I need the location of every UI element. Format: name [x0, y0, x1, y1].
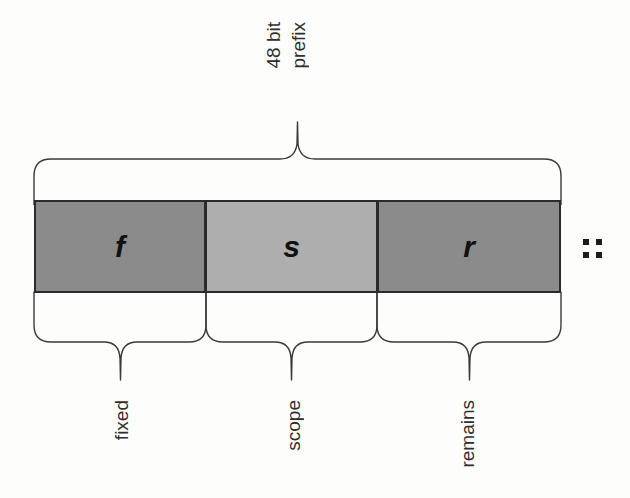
segment-letter-f: f — [115, 232, 125, 262]
brace-remains — [377, 292, 561, 380]
segment-label-scope: scope — [284, 400, 303, 451]
segment-label-remains: remains — [458, 400, 477, 468]
segment-box-fixed: f — [34, 200, 206, 293]
brace-scope — [206, 292, 377, 380]
top-brace-label-line2: prefix — [289, 22, 308, 68]
segment-letter-r: r — [463, 232, 475, 262]
segment-box-remains: r — [377, 200, 561, 293]
colon-dot-top-left — [583, 239, 589, 245]
segment-label-fixed: fixed — [112, 400, 131, 440]
segment-letter-s: s — [283, 232, 300, 262]
top-brace — [0, 115, 630, 205]
top-brace-label-line1: 48 bit — [264, 22, 283, 68]
segment-box-scope: s — [205, 200, 378, 293]
colon-dot-bottom-left — [583, 252, 589, 258]
double-colon-icon — [583, 239, 602, 266]
colon-dot-top-right — [596, 239, 602, 245]
colon-dot-bottom-right — [596, 252, 602, 258]
top-brace-label: 48 bit prefix — [264, 22, 318, 118]
bottom-braces — [0, 291, 630, 391]
brace-fixed — [34, 292, 206, 380]
ipv6-segment-diagram: f s r 48 bit prefix fixed scope remains — [0, 0, 630, 498]
